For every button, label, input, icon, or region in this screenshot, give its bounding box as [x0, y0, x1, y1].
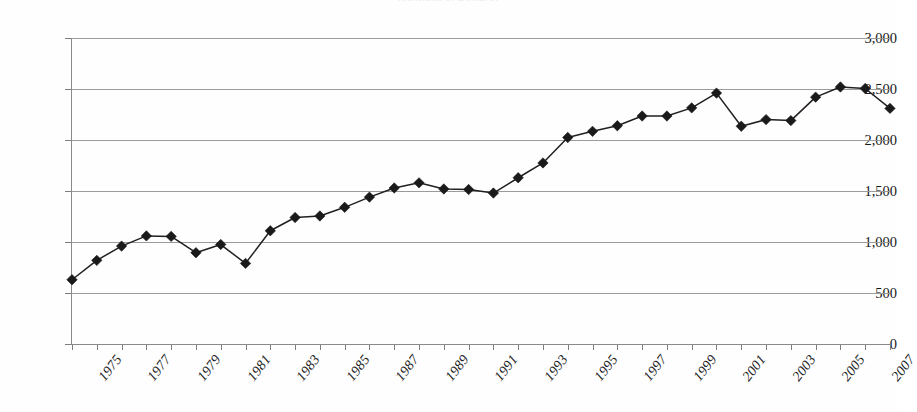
gridline [72, 38, 890, 39]
y-axis-tick-mark [65, 242, 71, 243]
x-axis-tick-label: 1989 [442, 352, 472, 385]
x-axis-tick-label: 1997 [640, 352, 670, 385]
y-axis-tick-mark [65, 293, 71, 294]
gridline [72, 140, 890, 141]
x-axis-tick-label: 1995 [591, 352, 621, 385]
x-axis-tick-label: 1977 [145, 352, 175, 385]
x-axis-tick-label: 1999 [690, 352, 720, 385]
x-axis-tick-label: 1987 [392, 352, 422, 385]
x-axis-tick-label: 1981 [244, 352, 274, 385]
y-axis-tick-mark [65, 89, 71, 90]
x-axis-tick-label: 1991 [492, 352, 522, 385]
gridline [72, 293, 890, 294]
x-axis-tick-label: 2001 [740, 352, 770, 385]
x-axis-tick-label: 2007 [888, 352, 917, 385]
y-axis-tick-mark [65, 191, 71, 192]
x-axis-tick-label: 2005 [839, 352, 869, 385]
x-axis-tick-mark [890, 344, 891, 350]
gridline [72, 191, 890, 192]
y-axis-tick-mark [65, 344, 71, 345]
gridline [72, 344, 890, 345]
plot-area [72, 38, 890, 344]
x-axis-tick-label: 1979 [194, 352, 224, 385]
x-axis-tick-label: 1985 [343, 352, 373, 385]
x-axis-tick-label: 2003 [789, 352, 819, 385]
y-axis-tick-mark [65, 140, 71, 141]
x-axis-tick-label: 1975 [95, 352, 125, 385]
gridline [72, 242, 890, 243]
gridline [72, 89, 890, 90]
y-axis-tick-mark [65, 38, 71, 39]
x-axis-tick-label: 1993 [541, 352, 571, 385]
x-axis-tick-label: 1983 [293, 352, 323, 385]
chart-subtitle: (Millions of Dollars) [0, 0, 897, 1]
